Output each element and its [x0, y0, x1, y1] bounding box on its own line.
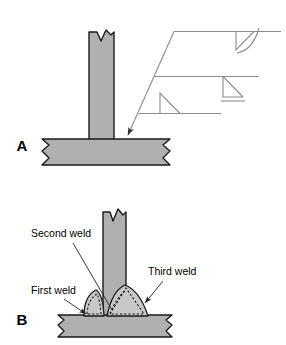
- callout-label-first-weld: First weld: [31, 284, 76, 296]
- panel-a-vertical-plate: [89, 30, 114, 141]
- panel-a-horizontal-plate: [42, 139, 170, 165]
- welding-diagram-figure: A Second weld First weld Third we: [0, 0, 286, 345]
- figure-canvas: A Second weld First weld Third we: [0, 0, 286, 345]
- panel-b-horizontal-plate: [58, 315, 172, 337]
- panel-label-b: B: [17, 311, 28, 328]
- callout-label-third-weld: Third weld: [148, 265, 197, 277]
- callout-label-second-weld: Second weld: [31, 227, 91, 239]
- panel-label-a: A: [17, 137, 28, 154]
